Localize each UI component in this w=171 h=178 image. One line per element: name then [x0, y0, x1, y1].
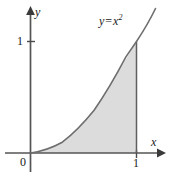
y-axis-tick-label-1: 1	[17, 35, 23, 47]
y-axis-label: y	[35, 6, 40, 18]
curve-equation-label: y=x2	[99, 14, 122, 27]
x-axis-label: x	[151, 136, 156, 148]
figure-area-under-curve: y x 1 1 0 y=x2	[0, 0, 171, 178]
curve-label-equals: =	[104, 14, 113, 28]
curve-label-exponent: 2	[118, 13, 122, 22]
y-axis-arrowhead	[26, 6, 35, 15]
shaded-area-region	[31, 42, 137, 154]
plot-canvas	[0, 0, 171, 178]
x-axis-tick-label-1: 1	[133, 157, 139, 169]
origin-label: 0	[20, 156, 26, 168]
x-axis-arrowhead	[157, 149, 166, 158]
